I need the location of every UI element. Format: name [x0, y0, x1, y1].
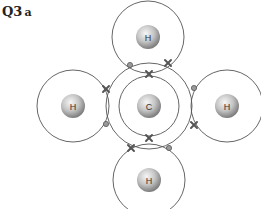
electron-dot-icon: [127, 62, 132, 67]
electron-dot-icon: [191, 85, 196, 90]
hydrogen-nucleus-bottom-symbol: H: [146, 176, 153, 186]
hydrogen-nucleus-top-symbol: H: [145, 33, 152, 43]
electron-dot-icon: [103, 121, 108, 126]
hydrogen-nucleus-right-symbol: H: [224, 102, 231, 112]
electron-dot-icon: [166, 145, 171, 150]
methane-dot-cross-diagram: CHHHH: [0, 0, 261, 209]
carbon-nucleus-symbol: C: [146, 102, 153, 112]
carbon-nucleus: C: [137, 94, 161, 118]
hydrogen-nucleus-bottom: H: [137, 168, 161, 192]
nuclei: CHHHH: [61, 25, 239, 192]
hydrogen-nucleus-right: H: [215, 94, 239, 118]
hydrogen-nucleus-left: H: [61, 94, 85, 118]
hydrogen-nucleus-top: H: [136, 25, 160, 49]
hydrogen-nucleus-left-symbol: H: [70, 102, 77, 112]
electron-cross-icon: [165, 60, 171, 66]
